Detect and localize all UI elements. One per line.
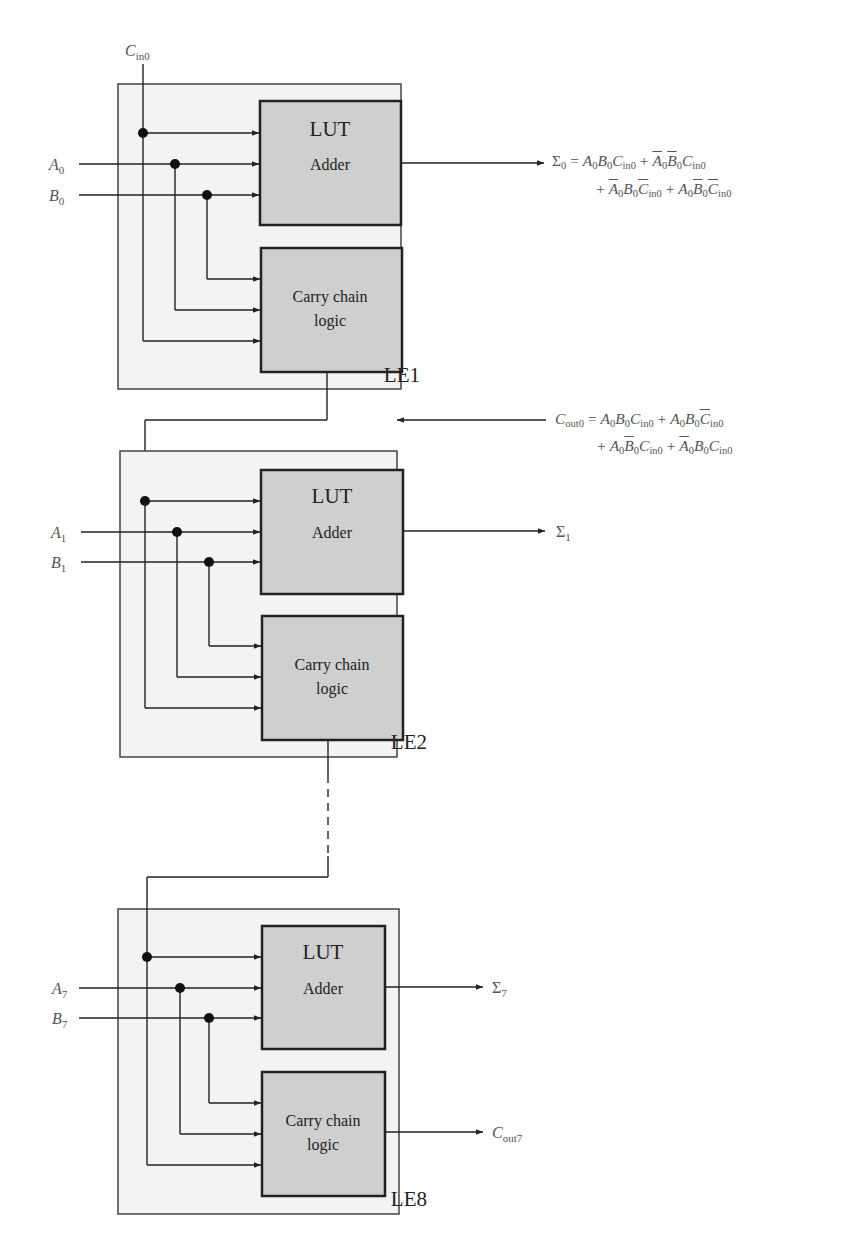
cout0-equation-line1: Cout0 = A0B0Cin0 + A0B0Cin0 <box>555 410 723 428</box>
le8-carry-line1: Carry chain <box>285 1112 360 1130</box>
junction-dot <box>204 557 214 567</box>
le8-lut-title: LUT <box>303 940 344 964</box>
a7-label: A7 <box>51 980 68 1000</box>
le2-label: LE2 <box>391 730 427 754</box>
le1-lut-subtitle: Adder <box>310 156 351 173</box>
le8-label: LE8 <box>391 1187 427 1211</box>
le2-lut-title: LUT <box>312 484 353 508</box>
junction-dot <box>172 527 182 537</box>
le1-carry-line2: logic <box>314 312 346 330</box>
le1-carry-block <box>261 248 402 372</box>
logic-element-le8: LUT Adder Carry chain logic LE8 <box>79 877 483 1214</box>
logic-element-le2: LUT Adder Carry chain logic LE2 <box>81 451 545 757</box>
sum0-equation-line1: Σ0 = A0B0Cin0 + A0B0Cin0 <box>552 152 706 170</box>
b1-label: B1 <box>51 554 66 574</box>
le2-carry-line1: Carry chain <box>294 656 369 674</box>
le8-carry-block <box>262 1072 385 1196</box>
le8-lut-subtitle: Adder <box>303 980 344 997</box>
junction-dot <box>204 1013 214 1023</box>
junction-dot <box>175 983 185 993</box>
a0-label: A0 <box>48 156 65 176</box>
le8-carry-line2: logic <box>307 1136 339 1154</box>
b7-label: B7 <box>52 1010 68 1030</box>
le1-carry-line1: Carry chain <box>292 288 367 306</box>
sum1-label: Σ1 <box>556 523 571 543</box>
junction-dot <box>140 496 150 506</box>
junction-dot <box>138 128 148 138</box>
junction-dot <box>170 159 180 169</box>
cout7-label: Cout7 <box>492 1124 523 1144</box>
sum0-equation-line2: + A0B0Cin0 + A0B0Cin0 <box>596 180 732 198</box>
le2-carry-line2: logic <box>316 680 348 698</box>
junction-dot <box>202 190 212 200</box>
le1-label: LE1 <box>384 363 420 387</box>
junction-dot <box>142 952 152 962</box>
cout0-equation-line2: + A0B0Cin0 + A0B0Cin0 <box>597 437 733 455</box>
b0-label: B0 <box>49 187 65 207</box>
logic-element-le1: LUT Adder Carry chain logic LE1 <box>79 64 544 389</box>
le1-lut-title: LUT <box>310 117 351 141</box>
le2-lut-subtitle: Adder <box>312 524 353 541</box>
cin0-label: Cin0 <box>125 42 150 62</box>
le2-carry-block <box>262 616 403 740</box>
a1-label: A1 <box>50 524 66 544</box>
sum7-label: Σ7 <box>492 979 507 999</box>
